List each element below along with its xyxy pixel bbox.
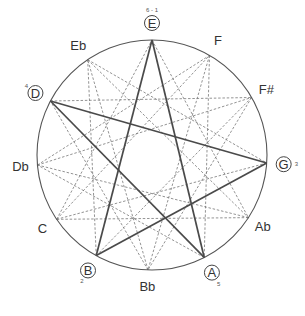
note-label: Ab bbox=[255, 219, 271, 234]
note-eb: Eb bbox=[70, 38, 86, 53]
dashed-line-C-E bbox=[57, 40, 152, 219]
note-e: E6 - 1 bbox=[145, 7, 160, 31]
dashed-line-Ab-Db bbox=[37, 165, 248, 218]
solid-line-G-B bbox=[96, 163, 266, 256]
note-b: B2 bbox=[80, 263, 95, 285]
solid-line-E-A bbox=[152, 40, 204, 257]
dashed-line-F-A bbox=[204, 55, 209, 257]
note-a: A5 bbox=[204, 265, 221, 287]
pentagram-solid-lines bbox=[50, 40, 266, 257]
note-label: Db bbox=[12, 159, 29, 174]
pentatonic-star-diagram: E6 - 1FF#G3AbA5BbB2CDbD4Eb bbox=[0, 0, 305, 316]
outer-circle bbox=[37, 40, 267, 270]
dashed-line-E-Ab bbox=[152, 40, 248, 218]
note-d: D4 bbox=[25, 83, 43, 101]
note-label: F bbox=[214, 33, 222, 48]
degree-annotation: 6 - 1 bbox=[146, 7, 159, 13]
degree-annotation: 3 bbox=[295, 161, 299, 167]
solid-line-A-D bbox=[50, 101, 204, 257]
dashed-interval-lines bbox=[37, 40, 266, 270]
solid-line-B-E bbox=[96, 40, 152, 256]
note-label: F# bbox=[259, 82, 275, 97]
note-c: C bbox=[38, 221, 47, 236]
note-label: D bbox=[31, 86, 40, 101]
note-label: C bbox=[38, 221, 47, 236]
note-label: A bbox=[208, 265, 217, 280]
note-fsharp: F# bbox=[259, 82, 275, 97]
note-bb: Bb bbox=[139, 279, 155, 294]
note-label: E bbox=[148, 16, 157, 31]
dashed-line-Ab-C bbox=[57, 218, 249, 220]
note-ab: Ab bbox=[255, 219, 271, 234]
note-label: B bbox=[84, 263, 93, 278]
degree-annotation: 5 bbox=[217, 281, 221, 287]
dashed-line-Db-F# bbox=[37, 98, 251, 166]
note-label: G bbox=[279, 157, 289, 172]
degree-annotation: 4 bbox=[25, 83, 29, 89]
dashed-line-F#-Bb bbox=[148, 98, 252, 270]
dashed-line-C-F bbox=[57, 55, 210, 219]
note-f: F bbox=[214, 33, 222, 48]
solid-line-D-G bbox=[50, 101, 266, 163]
dashed-line-D-F# bbox=[50, 98, 251, 102]
note-db: Db bbox=[12, 159, 29, 174]
note-label: Eb bbox=[70, 38, 86, 53]
degree-annotation: 2 bbox=[80, 278, 84, 284]
circle-of-notes-svg: E6 - 1FF#G3AbA5BbB2CDbD4Eb bbox=[0, 0, 305, 316]
dashed-line-B-Eb bbox=[88, 60, 97, 256]
note-label: Bb bbox=[139, 279, 155, 294]
note-labels: E6 - 1FF#G3AbA5BbB2CDbD4Eb bbox=[12, 7, 298, 294]
dashed-line-G-C bbox=[57, 163, 267, 219]
note-g: G3 bbox=[276, 157, 299, 172]
